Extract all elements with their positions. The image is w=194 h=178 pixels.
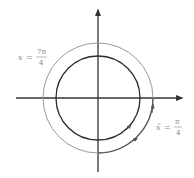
angle-diagram: x = 7π 4 x̃ = π 4 bbox=[0, 0, 194, 178]
svg-text:=: = bbox=[164, 123, 171, 132]
svg-text:4: 4 bbox=[39, 59, 44, 67]
label-pi-over-4: x̃ = π 4 bbox=[156, 118, 182, 137]
svg-text:π: π bbox=[175, 118, 180, 126]
svg-text:x: x bbox=[18, 53, 23, 62]
label-7pi-over-4: x = 7π 4 bbox=[18, 48, 47, 67]
arc-arrow-icon bbox=[129, 139, 136, 143]
outer-arc-highlight bbox=[98, 98, 153, 153]
svg-text:4: 4 bbox=[176, 129, 181, 137]
svg-text:=: = bbox=[26, 53, 33, 62]
svg-text:7π: 7π bbox=[37, 48, 46, 56]
svg-text:x̃: x̃ bbox=[156, 123, 161, 132]
